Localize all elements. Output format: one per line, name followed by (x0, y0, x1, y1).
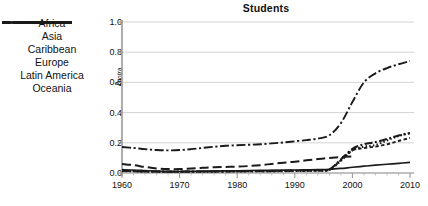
legend-label: Europe (35, 56, 69, 69)
plot-canvas (104, 0, 428, 206)
legend-item-asia[interactable]: Asia (0, 31, 104, 43)
legend-item-latin-america[interactable]: Latin America (0, 70, 104, 82)
legend-label: Oceania (32, 82, 71, 95)
series-line-asia (122, 61, 410, 150)
legend-swatch-dashed-long (0, 18, 74, 27)
chart-page: AfricaAsiaCaribbeanEuropeLatin AmericaOc… (0, 0, 428, 206)
legend-label: Latin America (20, 69, 84, 82)
series-line-oceania (122, 156, 352, 169)
chart-area: Students Δintra 0.00.20.40.60.81.0 19601… (104, 0, 428, 206)
legend-item-europe[interactable]: Europe (0, 57, 104, 69)
legend-label: Caribbean (28, 43, 76, 56)
chart-legend: AfricaAsiaCaribbeanEuropeLatin AmericaOc… (0, 18, 104, 96)
legend-label: Asia (42, 30, 62, 43)
legend-item-oceania[interactable]: Oceania (0, 83, 104, 95)
legend-item-caribbean[interactable]: Caribbean (0, 44, 104, 56)
